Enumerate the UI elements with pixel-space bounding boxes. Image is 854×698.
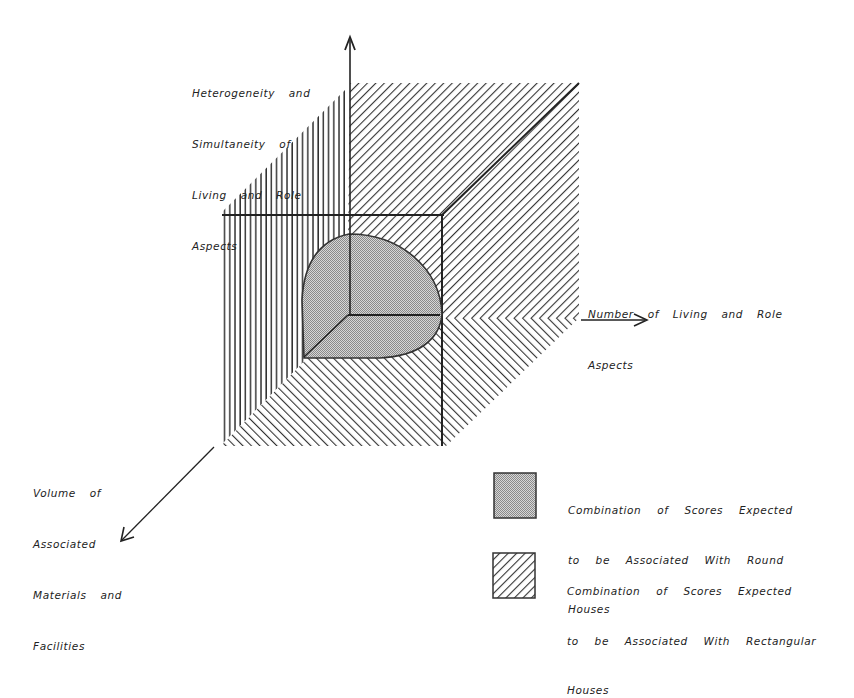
label-line: Heterogeneity and xyxy=(192,85,310,102)
label-line: Materials and xyxy=(33,587,122,604)
vertical-axis-label: Heterogeneity and Simultaneity of Living… xyxy=(192,51,310,272)
depth-axis-arrow xyxy=(122,447,214,540)
horizontal-axis-label: Number of Living and Role Aspects xyxy=(588,272,782,391)
label-line: Simultaneity of xyxy=(192,136,310,153)
label-line: Aspects xyxy=(192,238,310,255)
depth-axis-label: Volume of Associated Materials and Facil… xyxy=(33,451,122,672)
legend-swatch-rectangular xyxy=(493,553,535,598)
label-line: Facilities xyxy=(33,638,122,655)
legend-line: Combination of Scores Expected xyxy=(568,502,793,519)
label-line: Living and Role xyxy=(192,187,310,204)
legend-label-rectangular: Combination of Scores Expected to be Ass… xyxy=(567,550,816,698)
legend-line: Combination of Scores Expected xyxy=(567,583,816,600)
label-line: Aspects xyxy=(588,357,782,374)
legend-swatch-round xyxy=(494,473,536,518)
label-line: Number of Living and Role xyxy=(588,306,782,323)
legend-line: Houses xyxy=(567,682,816,698)
legend-line: to be Associated With Rectangular xyxy=(567,633,816,650)
label-line: Volume of xyxy=(33,485,122,502)
label-line: Associated xyxy=(33,536,122,553)
